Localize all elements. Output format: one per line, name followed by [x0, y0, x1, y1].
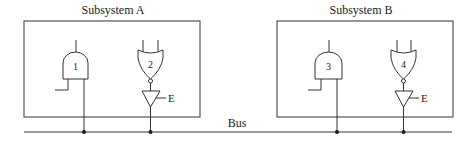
gate-1-number: 1	[73, 61, 78, 72]
enable-label-b: E	[421, 92, 428, 104]
bus: Bus	[24, 116, 452, 132]
gate-4-number: 4	[401, 59, 406, 70]
subsystem-a: Subsystem A 1 2 E	[24, 3, 200, 134]
enable-label-a: E	[168, 92, 175, 104]
gate-3-number: 3	[326, 61, 331, 72]
and-gate-1: 1	[55, 40, 88, 134]
inversion-bubble	[149, 79, 153, 83]
gate-2-number: 2	[148, 59, 153, 70]
subsystem-b-label: Subsystem B	[329, 3, 392, 17]
subsystem-b: Subsystem B 3 4 E	[277, 3, 453, 134]
gate-1-input-left	[55, 79, 68, 90]
nor-gate-2: 2 E	[138, 40, 175, 134]
inversion-bubble	[402, 79, 406, 83]
bus-label: Bus	[228, 116, 247, 130]
tri-state-buffer-a	[142, 91, 160, 107]
tri-state-buffer-b	[395, 91, 413, 107]
nor-gate-4: 4 E	[391, 40, 428, 134]
bus-circuit-diagram: Subsystem A 1 2 E Subsystem B	[0, 0, 470, 144]
and-gate-3: 3	[308, 40, 342, 134]
subsystem-a-label: Subsystem A	[81, 3, 144, 17]
diagram-canvas: Subsystem A 1 2 E Subsystem B	[0, 0, 470, 144]
gate-3-input-left	[308, 79, 321, 90]
